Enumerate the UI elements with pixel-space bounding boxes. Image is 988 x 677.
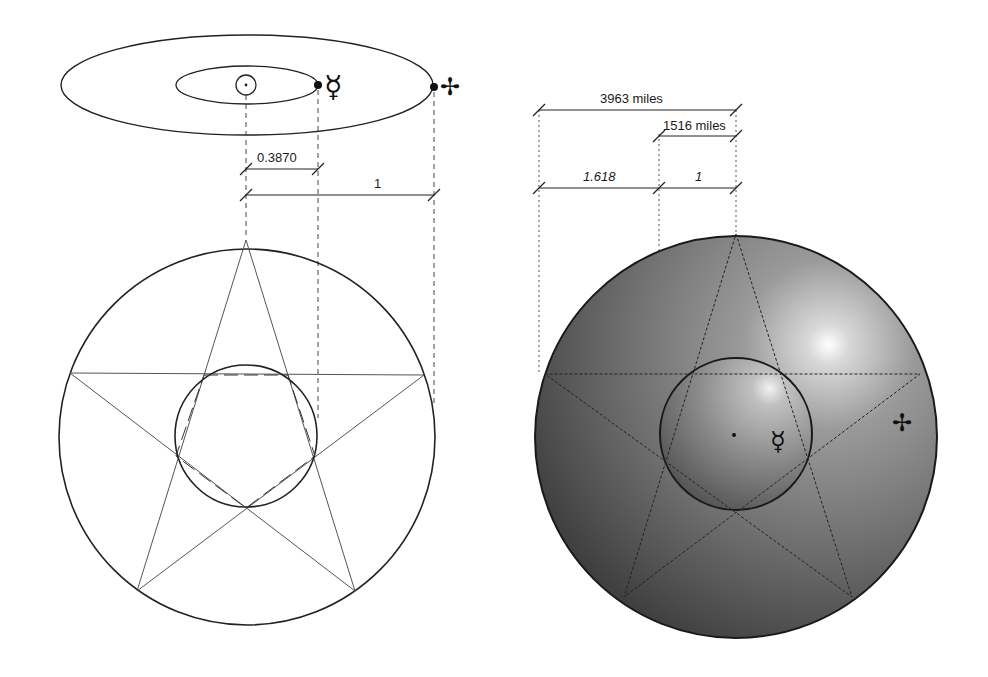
center-dot: [732, 433, 736, 437]
dimension-golden-ratio: 1.618 1: [533, 169, 742, 194]
mercury-radius-label: 1516 miles: [663, 118, 726, 133]
earth-symbol-icon: ✢: [892, 409, 912, 437]
pentagram: [70, 240, 424, 591]
orbit-diagram: ☿ ✢ 0.3870 1: [61, 35, 460, 418]
left-pentagram-figure: [59, 240, 435, 625]
inner-circle: [175, 365, 317, 507]
right-sphere-figure: ☿ ✢: [535, 234, 937, 638]
mercury-symbol-icon: ☿: [324, 69, 342, 104]
dimension-mercury-distance: 0.3870: [240, 150, 324, 175]
outer-circle: [59, 249, 435, 625]
earth-radius-label: 3963 miles: [600, 91, 663, 106]
mercury-planet-dot: [314, 81, 322, 89]
dimension-mercury-radius: 1516 miles: [653, 118, 742, 142]
ratio-small-label: 1: [695, 169, 702, 184]
earth-distance-label: 1: [374, 176, 381, 191]
earth-symbol-icon: ✢: [440, 73, 460, 101]
dimension-earth-distance: 1: [240, 176, 440, 201]
mercury-earth-pentagram-diagram: ☿ ✢ 0.3870 1: [0, 0, 988, 677]
dimension-earth-radius: 3963 miles: [533, 91, 742, 116]
sun-icon: [236, 75, 256, 95]
ratio-large-label: 1.618: [583, 169, 616, 184]
earth-planet-dot: [430, 83, 438, 91]
mercury-sphere: [660, 358, 812, 510]
mercury-symbol-icon: ☿: [770, 426, 786, 456]
mercury-distance-label: 0.3870: [257, 150, 297, 165]
